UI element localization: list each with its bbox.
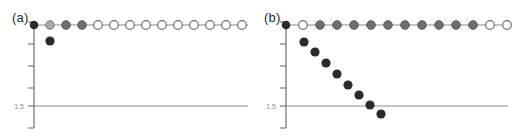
- data-point-marker: [503, 21, 512, 30]
- panel-a-axes: [28, 22, 34, 128]
- panel-b: (b) 1.5: [258, 0, 516, 139]
- data-point-marker: [142, 21, 151, 30]
- data-point-marker: [376, 109, 385, 118]
- data-point-marker: [316, 21, 325, 30]
- data-point-marker: [46, 21, 55, 30]
- data-point-marker: [367, 21, 376, 30]
- data-point-marker: [354, 90, 363, 99]
- data-point-marker: [299, 37, 308, 46]
- data-point-marker: [110, 21, 119, 30]
- data-point-marker: [343, 80, 352, 89]
- figure-root: (a) 1.5: [0, 0, 517, 139]
- data-point-marker: [30, 21, 39, 30]
- panel-b-plot-area: 1.5: [258, 0, 516, 139]
- data-point-marker: [190, 21, 199, 30]
- y-tick-label-1p5: 1.5: [266, 103, 276, 110]
- panel-a-plot-area: 1.5: [0, 0, 258, 139]
- data-point-marker: [222, 21, 231, 30]
- data-point-marker: [321, 58, 330, 67]
- data-point-marker: [310, 47, 319, 56]
- data-point-marker: [94, 21, 103, 30]
- panel-a: (a) 1.5: [0, 0, 258, 139]
- data-point-marker: [238, 21, 247, 30]
- panel-b-axes: [280, 22, 286, 128]
- data-point-marker: [418, 21, 427, 30]
- data-point-marker: [350, 21, 359, 30]
- data-point-marker: [401, 21, 410, 30]
- data-point-marker: [126, 21, 135, 30]
- data-point-marker: [384, 21, 393, 30]
- data-point-marker: [282, 21, 291, 30]
- data-point-marker: [45, 36, 54, 45]
- data-point-marker: [333, 21, 342, 30]
- data-point-marker: [332, 69, 341, 78]
- data-point-marker: [62, 21, 71, 30]
- data-point-marker: [486, 21, 495, 30]
- data-point-marker: [435, 21, 444, 30]
- data-point-marker: [174, 21, 183, 30]
- data-point-marker: [158, 21, 167, 30]
- panel-b-svg: 1.5: [258, 0, 517, 139]
- data-point-marker: [78, 21, 87, 30]
- data-point-marker: [365, 100, 374, 109]
- data-point-marker: [206, 21, 215, 30]
- data-point-marker: [299, 21, 308, 30]
- panel-a-lower-outlier-markers: [45, 36, 54, 45]
- data-point-marker: [452, 21, 461, 30]
- panel-a-svg: 1.5: [0, 0, 258, 139]
- data-point-marker: [469, 21, 478, 30]
- y-tick-label-1p5: 1.5: [14, 103, 24, 110]
